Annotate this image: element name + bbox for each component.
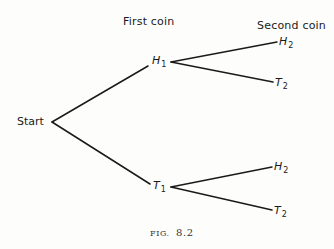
node-t1-h2-letter: H <box>274 160 282 173</box>
first-coin-header: First coin <box>123 16 174 27</box>
node-t1-h2: H2 <box>274 161 288 175</box>
node-t1-subscript: 1 <box>161 185 166 194</box>
node-h1-t2-subscript: 2 <box>283 82 288 91</box>
node-t1: T1 <box>153 180 166 194</box>
node-h1-h2-subscript: 2 <box>288 41 293 50</box>
node-h1-h2: H2 <box>279 36 293 50</box>
node-t1-letter: T <box>153 179 160 192</box>
node-t1-t2-letter: T <box>274 204 281 217</box>
node-h1-t2-letter: T <box>275 76 282 89</box>
tree-diagram: First coin Second coin Start H1 T1 H2 T2… <box>0 0 334 249</box>
node-h1-subscript: 1 <box>161 60 166 69</box>
node-h1: H1 <box>152 55 166 69</box>
node-t1-h2-subscript: 2 <box>283 166 288 175</box>
branch-start-h1 <box>52 66 148 122</box>
node-h1-t2: T2 <box>275 77 288 91</box>
caption-prefix: FIG. <box>150 229 170 238</box>
node-h1-h2-letter: H <box>279 35 287 48</box>
node-t1-t2: T2 <box>274 205 287 219</box>
second-coin-header: Second coin <box>257 20 326 31</box>
node-h1-letter: H <box>152 54 160 67</box>
branch-t1-h2 <box>171 167 272 187</box>
branch-h1-h2 <box>171 42 277 62</box>
caption-number: 8.2 <box>176 227 194 238</box>
branch-t1-t2 <box>171 187 272 210</box>
figure-caption: FIG. 8.2 <box>150 228 194 238</box>
node-t1-t2-subscript: 2 <box>282 210 287 219</box>
branch-h1-t2 <box>171 62 273 82</box>
branch-start-t1 <box>52 122 150 184</box>
start-label: Start <box>17 116 44 127</box>
